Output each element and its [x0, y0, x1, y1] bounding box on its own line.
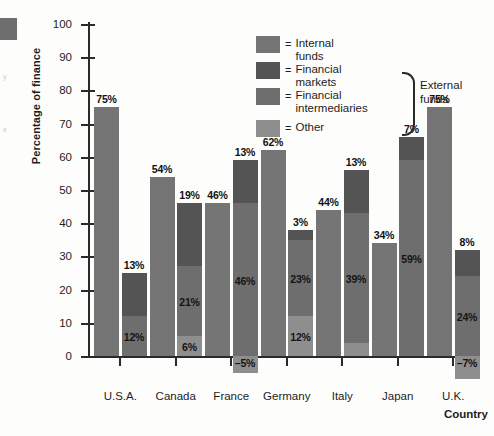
bar-segment-internal-funds	[372, 243, 397, 356]
bar-internal-funds: 34%	[372, 243, 397, 356]
legend-label: Internal funds	[295, 36, 333, 63]
legend-equals-sign: =	[285, 36, 291, 53]
x-tick	[397, 358, 399, 366]
bar-value-label: 59%	[399, 253, 424, 265]
x-category-label: Canada	[156, 390, 196, 402]
y-tick: 30	[81, 256, 95, 258]
x-axis-title: Country	[444, 408, 488, 420]
bar-internal-funds: 62%	[261, 150, 286, 356]
y-tick-label: 100	[53, 19, 72, 31]
bar-value-label: 44%	[316, 196, 341, 208]
legend-swatch	[256, 88, 280, 105]
bar-segment-financial-markets	[233, 160, 258, 203]
bar-segment-financial-markets	[288, 230, 313, 240]
legend-swatch	[256, 120, 280, 137]
bar-segment-internal-funds	[205, 203, 230, 356]
bar-segment-internal-funds	[316, 210, 341, 356]
bar-segment-financial-markets	[455, 250, 480, 277]
legend-swatch	[256, 36, 280, 53]
bar-value-label: 3%	[288, 216, 313, 228]
external-funds-brace	[402, 72, 415, 136]
bar-external-funds: 6%21%19%	[177, 203, 202, 356]
y-tick: 100	[81, 24, 95, 26]
bar-internal-funds: 75%	[94, 107, 119, 356]
bar-value-label: 13%	[122, 259, 147, 271]
bar-segment-negative-other: –7%	[455, 356, 480, 379]
legend-equals-sign: =	[285, 62, 291, 79]
bar-value-label: 34%	[372, 229, 397, 241]
bar-internal-funds: 46%	[205, 203, 230, 356]
bar-segment-financial-markets	[122, 273, 147, 316]
legend-item: =Internal funds	[256, 36, 334, 63]
scan-artifact-text: e	[3, 126, 7, 133]
bar-value-label: 8%	[455, 236, 480, 248]
legend-item: =Other	[256, 120, 324, 137]
bar-value-label: 24%	[455, 311, 480, 323]
x-category-label: France	[213, 390, 249, 402]
bar-chart: y e Percentage of finance 01020304050607…	[0, 0, 494, 436]
x-tick	[230, 358, 232, 366]
bar-value-label: 75%	[94, 93, 119, 105]
y-tick-label: 50	[59, 185, 72, 197]
bar-value-label: 39%	[344, 273, 369, 285]
bar-segment-internal-funds	[94, 107, 119, 356]
bar-value-label: 6%	[177, 341, 202, 353]
x-category-label: Italy	[332, 390, 353, 402]
y-tick: 70	[81, 124, 95, 126]
legend-item: =Financialintermediaries	[256, 88, 368, 115]
bar-value-label: 54%	[150, 163, 175, 175]
bar-value-label: –5%	[233, 357, 258, 369]
x-tick	[119, 358, 121, 366]
bar-segment-internal-funds	[261, 150, 286, 356]
x-category-label: Japan	[382, 390, 413, 402]
bar-segment-negative-other: –5%	[233, 356, 258, 373]
y-tick: 80	[81, 90, 95, 92]
bar-segment-internal-funds	[427, 107, 452, 356]
bar-value-label: 13%	[344, 156, 369, 168]
bar-external-funds: 46%13%	[233, 160, 258, 356]
bar-external-funds: 59%7%	[399, 137, 424, 356]
legend-equals-sign: =	[285, 120, 291, 137]
x-axis-line	[88, 356, 480, 358]
bar-segment-financial-markets	[344, 170, 369, 213]
x-tick	[286, 358, 288, 366]
x-category-label: Germany	[263, 390, 310, 402]
y-tick-label: 80	[59, 85, 72, 97]
y-tick: 60	[81, 157, 95, 159]
external-funds-label: Externalfunds	[420, 78, 462, 106]
y-tick-label: 60	[59, 152, 72, 164]
y-tick-label: 90	[59, 52, 72, 64]
bar-value-label: 21%	[177, 296, 202, 308]
legend-label: Other	[295, 120, 324, 134]
y-tick: 0	[81, 356, 95, 358]
bar-value-label: –7%	[455, 357, 480, 369]
bar-value-label: 19%	[177, 189, 202, 201]
legend-label: Financialintermediaries	[295, 88, 367, 115]
bar-internal-funds: 54%	[150, 177, 175, 356]
y-tick-label: 70	[59, 119, 72, 131]
legend-label: Financial markets	[295, 62, 341, 89]
bar-value-label: 13%	[233, 146, 258, 158]
bar-external-funds: 12%23%3%	[288, 230, 313, 356]
y-tick: 40	[81, 223, 95, 225]
x-tick	[175, 358, 177, 366]
scan-artifact-block	[0, 18, 17, 40]
bar-value-label: 46%	[205, 189, 230, 201]
x-tick	[452, 358, 454, 366]
y-tick-label: 30	[59, 251, 72, 263]
y-tick: 10	[81, 323, 95, 325]
y-tick-label: 40	[59, 218, 72, 230]
y-tick: 50	[81, 190, 95, 192]
legend-swatch	[256, 62, 280, 79]
y-tick-label: 20	[59, 285, 72, 297]
y-axis-title: Percentage of finance	[30, 26, 42, 186]
legend-equals-sign: =	[285, 88, 291, 105]
y-tick-label: 10	[59, 318, 72, 330]
bar-segment-financial-markets	[399, 137, 424, 160]
y-tick: 90	[81, 57, 95, 59]
bar-value-label: 12%	[122, 331, 147, 343]
bar-external-funds: 24%8%	[455, 250, 480, 356]
x-tick	[341, 358, 343, 366]
bar-internal-funds: 75%	[427, 107, 452, 356]
y-tick-label: 0	[66, 351, 72, 363]
